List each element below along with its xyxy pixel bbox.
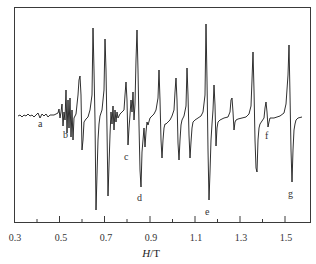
spectrum-chart: 0.3 0.5 0.7 0.9 1.1 1.3 1.5 H/T a b c d … [0,0,316,264]
x-tick-label: 0.3 [9,232,22,243]
x-tick-label: 1.5 [280,232,293,243]
x-axis-title: H/T [141,247,160,259]
x-tick-labels: 0.3 0.5 0.7 0.9 1.1 1.3 1.5 [9,232,293,243]
x-major-ticks [15,216,286,222]
x-tick-label: 0.5 [55,232,68,243]
x-tick-label: 0.9 [145,232,158,243]
peak-label-a: a [38,118,43,129]
x-tick-label: 0.7 [100,232,113,243]
spectrum-trace [18,24,302,210]
peak-label-f: f [265,130,269,141]
x-tick-label: 1.3 [235,232,248,243]
x-axis-title-unit: /T [150,247,160,259]
peak-label-c: c [124,151,129,162]
plot-frame [15,8,311,223]
peak-label-b: b [63,129,68,140]
peak-label-g: g [288,188,293,199]
peak-label-e: e [205,206,210,217]
peak-label-d: d [137,192,142,203]
x-tick-label: 1.1 [190,232,203,243]
